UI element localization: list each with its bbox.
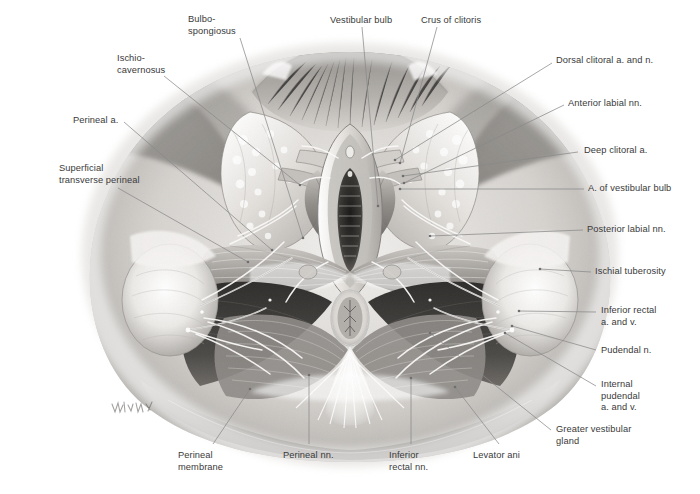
label-internal-pudendal-av: Internal pudendal a. and v. [601, 379, 640, 414]
label-deep-clitoral-a: Deep clitoral a. [584, 145, 647, 157]
label-posterior-labial-nn: Posterior labial nn. [587, 224, 666, 236]
label-greater-vestibular: Greater vestibular gland [556, 424, 631, 447]
label-perineal-membrane: Perineal membrane [178, 450, 223, 473]
label-ischial-tuberosity: Ischial tuberosity [595, 266, 666, 278]
label-perineal-nn: Perineal nn. [283, 450, 334, 462]
label-perineal-a: Perineal a. [73, 115, 118, 127]
figure-canvas: Bulbo- spongiosusVestibular bulbCrus of … [0, 0, 700, 494]
artist-signature [112, 402, 152, 412]
label-dorsal-clitoral-an: Dorsal clitoral a. and n. [556, 55, 653, 67]
label-pudendal-n: Pudendal n. [601, 345, 652, 357]
label-crus-of-clitoris: Crus of clitoris [421, 15, 481, 27]
perineum-illustration [0, 0, 700, 494]
label-ischiocavernosus: Ischio- cavernosus [117, 53, 165, 76]
label-vestibular-bulb: Vestibular bulb [330, 15, 392, 27]
label-levator-ani: Levator ani [473, 450, 520, 462]
label-bulbospongiosus: Bulbo- spongiosus [188, 14, 236, 37]
label-inferior-rectal-nn: Inferior rectal nn. [389, 450, 428, 473]
label-a-of-vestibular-bulb: A. of vestibular bulb [588, 183, 671, 195]
label-inferior-rectal-av: Inferior rectal a. and v. [601, 305, 656, 328]
label-anterior-labial-nn: Anterior labial nn. [568, 98, 642, 110]
label-superficial-transverse: Superficial transverse perineal [59, 163, 140, 186]
